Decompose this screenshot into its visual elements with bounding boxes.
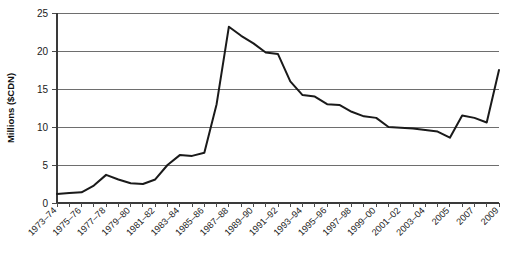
- x-axis-tick-label: 2007: [454, 205, 476, 227]
- y-axis-tick-label: 5: [42, 160, 48, 171]
- y-axis-tick-label: 0: [42, 198, 48, 209]
- y-axis-title: Millions ($CDN): [5, 73, 16, 143]
- chart-container: 05101520251973–741975–761977–781979–8019…: [0, 0, 506, 266]
- y-axis-tick-label: 15: [37, 84, 49, 95]
- data-series-line: [57, 27, 499, 194]
- y-axis-tick-label: 20: [37, 46, 49, 57]
- x-axis-tick-label: 2009: [479, 205, 501, 227]
- y-axis-tick-label: 10: [37, 122, 49, 133]
- line-chart: 05101520251973–741975–761977–781979–8019…: [0, 0, 506, 266]
- x-axis-tick-label: 2005: [430, 205, 452, 227]
- y-axis-tick-label: 25: [37, 8, 49, 19]
